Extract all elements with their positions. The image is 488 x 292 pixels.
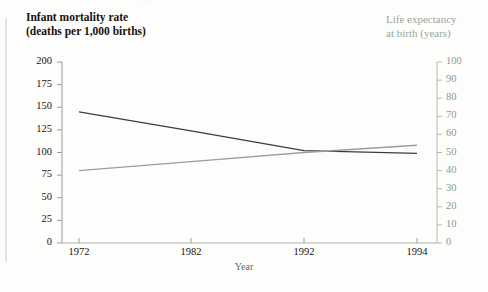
left-axis-ticks — [57, 62, 62, 243]
right-tick-label: 60 — [446, 127, 486, 138]
left-tick-label: 150 — [12, 100, 52, 111]
right-axis-ticks — [437, 62, 442, 243]
x-tick-label: 1982 — [161, 246, 221, 257]
x-axis-title: Year — [214, 261, 274, 272]
left-tick-label: 200 — [12, 55, 52, 66]
x-tick-label: 1992 — [274, 246, 334, 257]
left-tick-label: 75 — [12, 168, 52, 179]
right-tick-label: 30 — [446, 182, 486, 193]
x-axis-ticks — [79, 238, 417, 243]
left-tick-label: 175 — [12, 78, 52, 89]
left-tick-label: 50 — [12, 191, 52, 202]
right-tick-label: 0 — [446, 236, 486, 247]
right-tick-label: 10 — [446, 218, 486, 229]
right-tick-label: 70 — [446, 109, 486, 120]
series-line — [79, 112, 417, 154]
series-line — [79, 145, 417, 170]
x-tick-label: 1994 — [387, 246, 447, 257]
right-tick-label: 40 — [446, 164, 486, 175]
left-tick-label: 25 — [12, 213, 52, 224]
chart-figure: ·· Infant mortality rate (deaths per 1,0… — [0, 0, 488, 292]
x-tick-label: 1972 — [49, 246, 109, 257]
left-tick-label: 125 — [12, 123, 52, 134]
right-tick-label: 80 — [446, 91, 486, 102]
left-tick-label: 0 — [12, 236, 52, 247]
left-tick-label: 100 — [12, 146, 52, 157]
right-tick-label: 20 — [446, 200, 486, 211]
data-series-lines — [79, 112, 417, 171]
right-tick-label: 50 — [446, 146, 486, 157]
right-tick-label: 90 — [446, 73, 486, 84]
right-tick-label: 100 — [446, 55, 486, 66]
